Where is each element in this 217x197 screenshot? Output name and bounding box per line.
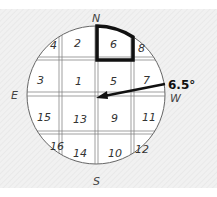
angle-label: 6.5° (168, 78, 195, 92)
cell-14: 14 (73, 147, 87, 160)
cell-15: 15 (37, 111, 51, 124)
cell-3: 3 (37, 74, 44, 87)
cell-12: 12 (135, 143, 149, 156)
cell-10: 10 (108, 147, 122, 160)
cell-16: 16 (50, 140, 64, 153)
cell-4: 4 (50, 39, 57, 52)
cell-9: 9 (111, 112, 118, 125)
cell-11: 11 (142, 111, 156, 124)
north-label: N (92, 12, 100, 25)
cell-1: 1 (75, 75, 82, 88)
cell-7: 7 (143, 74, 150, 87)
south-label: S (93, 175, 100, 188)
cell-2: 2 (74, 37, 81, 50)
diagram-canvas: 4 2 6 8 3 1 5 7 15 13 9 11 16 14 10 12 N… (0, 0, 217, 197)
cell-13: 13 (73, 113, 87, 126)
west-label: W (170, 92, 182, 105)
cell-8: 8 (138, 42, 145, 55)
compass-grid-diagram: 4 2 6 8 3 1 5 7 15 13 9 11 16 14 10 12 N… (0, 0, 217, 197)
east-label: E (11, 89, 18, 102)
cell-6: 6 (110, 38, 117, 51)
cell-5: 5 (110, 75, 117, 88)
